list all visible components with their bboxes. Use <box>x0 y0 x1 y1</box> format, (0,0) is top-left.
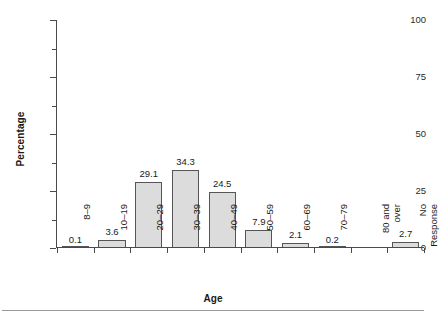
x-axis-label-line: 20–29 <box>154 204 165 256</box>
bar-value-label: 29.1 <box>127 168 171 179</box>
x-axis-label-line: No <box>417 204 428 256</box>
x-axis-label-line: 50–59 <box>264 204 275 256</box>
x-axis-label-line: 10–19 <box>118 204 129 256</box>
x-axis-label-line: over <box>391 204 402 256</box>
x-axis-label-line: 60–69 <box>301 204 312 256</box>
x-axis-label-line: 30–39 <box>191 204 202 256</box>
y-axis-tick <box>50 20 56 21</box>
bottom-divider-rule <box>2 310 424 311</box>
x-axis-label-line: 70–79 <box>338 204 349 256</box>
x-axis-category-label: 40–49 <box>228 204 242 256</box>
x-axis-tick <box>57 248 58 253</box>
x-axis-label-line: 40–49 <box>228 204 239 256</box>
x-axis-category-label: 80 andover <box>380 204 404 256</box>
y-axis-title: Percentage <box>14 96 28 182</box>
y-axis-tick <box>50 77 56 78</box>
y-axis-minor-tick <box>52 106 56 107</box>
y-axis-minor-tick <box>52 220 56 221</box>
x-axis-title: Age <box>0 293 426 304</box>
x-axis-category-label: 8–9 <box>81 204 95 256</box>
y-axis-tick <box>50 191 56 192</box>
x-axis-label-line: 80 and <box>380 204 391 256</box>
x-axis-category-label: 30–39 <box>191 204 205 256</box>
y-axis-tick <box>50 248 56 249</box>
x-axis-category-label: 50–59 <box>264 204 278 256</box>
y-axis-minor-tick <box>52 49 56 50</box>
x-axis-label-line: 8–9 <box>81 204 92 256</box>
y-axis-minor-tick <box>52 163 56 164</box>
x-axis-category-label: 10–19 <box>118 204 132 256</box>
x-axis-label-line: Response <box>428 204 439 256</box>
x-axis-category-label: 70–79 <box>338 204 352 256</box>
x-axis-category-label: 20–29 <box>154 204 168 256</box>
bar-value-label: 34.3 <box>163 156 207 167</box>
y-axis-tick <box>50 134 56 135</box>
x-axis-category-label: NoResponse <box>417 204 441 256</box>
bar-value-label: 24.5 <box>200 178 244 189</box>
x-axis-category-label: 60–69 <box>301 204 315 256</box>
